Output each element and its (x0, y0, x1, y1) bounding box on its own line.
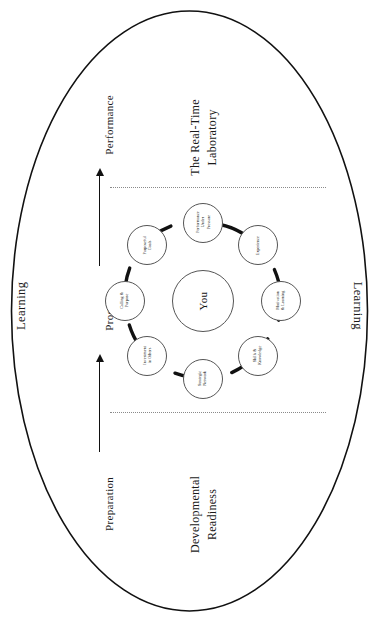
arrow-up-performance (99, 174, 100, 266)
node-label-investment-in-others: Investment in Others (142, 346, 153, 365)
node-calling-and-purpose[interactable]: Calling & Purpose (105, 281, 145, 321)
capability-wheel: Performance Under Pressure Experience Mo… (110, 193, 295, 408)
node-label-strategic-network: Strategic Network (197, 371, 208, 386)
node-strategic-network[interactable]: Strategic Network (183, 359, 223, 399)
node-experience[interactable]: Experience (238, 225, 278, 265)
node-label-performance-under-pressure: Performance Under Pressure (194, 212, 210, 233)
zone-readiness-line2: Readiness (205, 489, 219, 540)
divider-bottom (110, 412, 326, 413)
node-label-you: You (196, 291, 208, 310)
zone-readiness-line1: Developmental (188, 476, 202, 553)
node-label-calling-and-purpose: Calling & Purpose (119, 292, 130, 309)
node-investment-in-others[interactable]: Investment in Others (127, 336, 167, 376)
node-performance-under-pressure[interactable]: Performance Under Pressure (183, 203, 223, 243)
node-label-skills-and-knowledge: Skills & Knowledge (252, 346, 263, 365)
node-label-motivation-and-learning: Motivation & Learning (275, 291, 286, 310)
diagram-canvas: Learning Learning Performance Process Pr… (0, 0, 379, 622)
arrow-up-preparation (99, 360, 100, 452)
label-phase-performance: Performance (103, 75, 117, 175)
zone-realtime-line2: Laboratory (205, 109, 219, 165)
zone-realtime-line1: The Real-Time (188, 99, 202, 175)
node-you-core[interactable]: You (172, 270, 234, 332)
label-learning-left: Learning (14, 266, 30, 346)
label-zone-real-time-laboratory: The Real-Time Laboratory (187, 72, 222, 202)
node-label-experience: Experience (255, 236, 260, 255)
label-learning-right: Learning (349, 266, 365, 346)
node-label-purposeful-goals: Purposeful Goals (142, 236, 153, 254)
label-zone-developmental-readiness: Developmental Readiness (187, 449, 222, 579)
node-motivation-and-learning[interactable]: Motivation & Learning (261, 281, 301, 321)
label-phase-preparation: Preparation (103, 452, 117, 556)
node-skills-and-knowledge[interactable]: Skills & Knowledge (238, 336, 278, 376)
